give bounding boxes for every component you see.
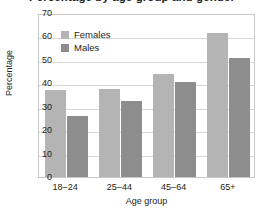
legend-label: Males (74, 42, 99, 53)
y-tick-label: 30 (26, 103, 52, 112)
y-tick-label: 0 (26, 173, 52, 182)
y-tick-label: 70 (26, 9, 52, 18)
y-tick-label: 40 (26, 79, 52, 88)
legend-swatch-icon (61, 44, 69, 52)
x-axis-title: Age group (38, 196, 255, 206)
bar-females-2 (153, 74, 174, 177)
x-tick-label: 18–24 (35, 182, 95, 192)
bar-males-2 (175, 82, 196, 177)
legend-label: Females (74, 29, 110, 40)
x-tick-label: 65+ (198, 182, 258, 192)
y-tick-label: 50 (26, 56, 52, 65)
x-tick-label: 25–44 (89, 182, 149, 192)
bar-males-0 (67, 116, 88, 177)
legend-swatch-icon (61, 31, 69, 39)
bar-group (153, 15, 196, 177)
bar-females-1 (99, 89, 120, 177)
x-tick-label: 45–64 (144, 182, 204, 192)
y-tick-label: 10 (26, 150, 52, 159)
bar-females-3 (207, 33, 228, 177)
y-tick-label: 20 (26, 126, 52, 135)
y-axis-title: Percentage (4, 37, 14, 109)
y-tick-label: 60 (26, 32, 52, 41)
chart-title: Percentage by age group and gender (0, 0, 264, 3)
bar-group (207, 15, 250, 177)
legend-entry-males: Males (61, 41, 110, 54)
bar-males-3 (229, 58, 250, 177)
bar-males-1 (121, 101, 142, 177)
bar-chart: Percentage by age group and gender Perce… (0, 0, 264, 210)
legend-entry-females: Females (61, 28, 110, 41)
chart-legend: FemalesMales (61, 28, 110, 54)
